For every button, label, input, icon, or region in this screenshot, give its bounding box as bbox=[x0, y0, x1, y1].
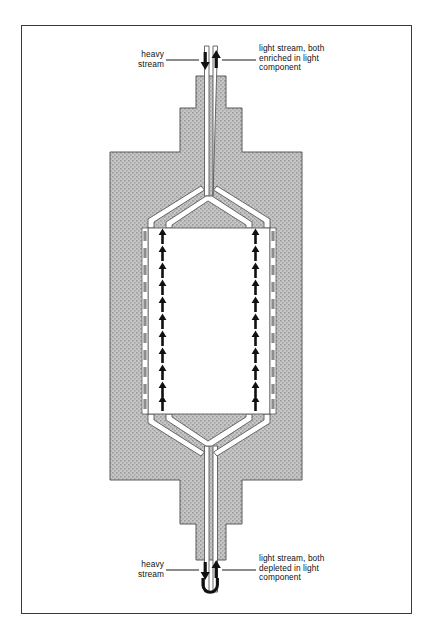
label-light-stream-depleted: light stream, both depleted in light com… bbox=[259, 554, 379, 583]
diagram-stage: heavy stream light stream, both enriched… bbox=[0, 0, 435, 636]
label-light-stream-enriched: light stream, both enriched in light com… bbox=[259, 44, 379, 73]
top-stream-markers bbox=[201, 50, 221, 70]
label-heavy-stream-bottom: heavy stream bbox=[108, 560, 164, 579]
column-diagram bbox=[0, 0, 435, 636]
label-heavy-stream-top: heavy stream bbox=[108, 50, 164, 69]
bottom-stream-markers bbox=[201, 560, 221, 592]
